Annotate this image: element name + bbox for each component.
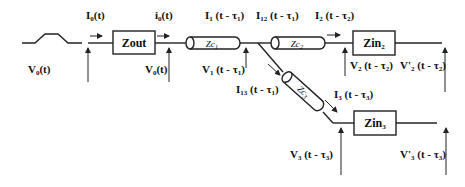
current-i0-label: i0(t) (155, 9, 173, 23)
current-I2-label: I2 (t - τ2) (315, 9, 355, 23)
zin3-input-wire (323, 100, 354, 175)
zc3-transmission-line: Zc3 (279, 70, 326, 114)
current-I13-label: I13 (t - τ1) (236, 83, 279, 97)
voltage-V1-label: V1 (t - τ1) (202, 63, 245, 77)
current-I1-label: I1 (t - τ1) (205, 9, 245, 23)
voltage-V3-label: V3 (t - τ3) (290, 148, 333, 162)
voltage-V3-prime-label: V'3 (t - τ3) (400, 148, 446, 162)
voltage-V2-label: V2 (t - τ2) (350, 59, 393, 73)
current-I12-label: I12 (t - τ1) (256, 9, 299, 23)
zin2-block: Zin2 (353, 31, 395, 55)
zin2-input-wire (325, 35, 353, 76)
branch-wire (258, 43, 283, 75)
zc1-transmission-line: Zc1 (186, 37, 240, 51)
current-I0-label: I0(t) (86, 9, 105, 23)
svg-text:Zc3: Zc3 (294, 84, 312, 102)
voltage-V2-prime-label: V'2 (t - τ2) (400, 59, 446, 73)
source-voltage-label: V0(t) (28, 63, 51, 77)
zc2-transmission-line: Zc2 (271, 37, 325, 51)
transmission-line-diagram: Zout Zc1 Zc2 Zin2 (0, 0, 465, 187)
voltage-V0-label: V0(t) (145, 63, 168, 77)
current-I3-label: I3 (t - τ3) (334, 88, 374, 102)
zout-block: Zout (113, 31, 155, 54)
zout-output-wire (155, 36, 187, 82)
zout-label: Zout (122, 36, 147, 50)
source-pulse-icon (22, 34, 82, 43)
input-wire (88, 36, 113, 82)
zin3-block: Zin3 (354, 111, 396, 135)
